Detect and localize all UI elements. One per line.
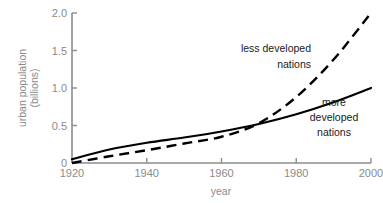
x-tick-label-4: 2000 — [359, 167, 383, 179]
annotation-more-developed-line3: nations — [317, 126, 351, 138]
chart-figure: 0 0.5 1.0 1.5 2.0 1920 1940 1960 1980 20… — [0, 0, 383, 203]
annotation-less-developed-line2: nations — [277, 58, 311, 70]
chart-plot-area: 0 0.5 1.0 1.5 2.0 1920 1940 1960 1980 20… — [0, 0, 383, 203]
annotation-more-developed-nations: more developed nations — [310, 96, 359, 138]
x-tick-label-3: 1980 — [284, 167, 308, 179]
y-axis-title-line2: (billions) — [28, 68, 40, 107]
y-tick-label-1: 0.5 — [52, 120, 67, 132]
annotation-less-developed-line1: less developed — [241, 42, 311, 54]
x-tick-label-0: 1920 — [60, 167, 84, 179]
x-tick-label-1: 1940 — [135, 167, 159, 179]
y-axis-title-line1: urban population — [16, 49, 28, 127]
y-axis-tick-labels: 0 0.5 1.0 1.5 2.0 — [52, 7, 67, 169]
x-axis-tick-labels: 1920 1940 1960 1980 2000 — [60, 167, 383, 179]
x-tick-label-2: 1960 — [209, 167, 233, 179]
annotation-more-developed-line1: more — [322, 96, 346, 108]
y-tick-label-4: 2.0 — [52, 7, 67, 19]
annotation-more-developed-line2: developed — [310, 111, 359, 123]
annotation-less-developed-nations: less developed nations — [241, 42, 311, 70]
y-tick-label-2: 1.0 — [52, 82, 67, 94]
y-axis-title: urban population (billions) — [16, 49, 40, 127]
x-axis-title: year — [211, 185, 232, 197]
y-tick-label-3: 1.5 — [52, 45, 67, 57]
series-line-less-developed-nations — [72, 13, 371, 163]
